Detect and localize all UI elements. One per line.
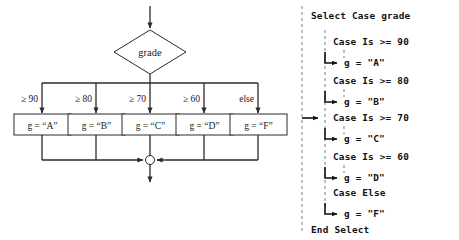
code-action-3: g = "C" [344, 133, 385, 144]
figure-container: grade ≥ 90 ≥ 80 ≥ 70 ≥ 60 else g = “A” g… [0, 0, 459, 240]
action-box-label-5: g = “F” [244, 121, 273, 131]
action-box-label-3: g = “C” [136, 121, 166, 131]
code-arrow-1 [325, 52, 337, 63]
code-header: Select Case grade [311, 10, 411, 21]
merge-junction-circle [146, 156, 155, 165]
code-case-2: Case Is >= 80 [333, 75, 409, 86]
code-panel: Select Case grade Case Is >= 90 g = "A" … [302, 6, 411, 235]
code-action-1: g = "A" [344, 57, 385, 68]
code-arrow-3 [325, 128, 337, 139]
code-arrow-2 [325, 91, 337, 102]
code-case-4: Case Is >= 60 [333, 151, 409, 162]
decision-label: grade [138, 47, 162, 58]
code-arrow-5 [325, 203, 337, 214]
code-case-5: Case Else [333, 187, 386, 198]
code-action-2: g = "B" [344, 96, 385, 107]
code-action-4: g = "D" [344, 172, 385, 183]
branch-label-3: ≥ 70 [129, 94, 146, 104]
branch-label-1: ≥ 90 [21, 94, 38, 104]
branch-label-5: else [239, 94, 254, 104]
action-box-label-1: g = “A” [27, 121, 57, 131]
code-case-3: Case Is >= 70 [333, 112, 409, 123]
code-action-5: g = "F" [344, 208, 385, 219]
code-footer: End Select [311, 224, 369, 235]
flowchart: grade ≥ 90 ≥ 80 ≥ 70 ≥ 60 else g = “A” g… [14, 6, 287, 182]
branch-label-2: ≥ 80 [75, 94, 92, 104]
code-arrow-4 [325, 167, 337, 178]
branch-label-4: ≥ 60 [183, 94, 200, 104]
action-box-label-4: g = “D” [189, 121, 219, 131]
action-box-label-2: g = “B” [82, 121, 112, 131]
code-case-1: Case Is >= 90 [333, 36, 409, 47]
